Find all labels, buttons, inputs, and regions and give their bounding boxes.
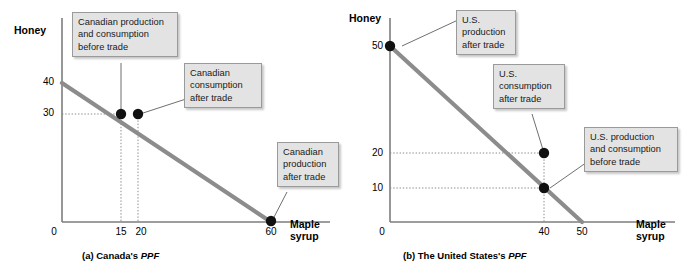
panel-united-states-ppf: Honey Maple syrup 50 20 10 0 40 50 U.S. … (345, 0, 691, 277)
canada-y-axis-label: Honey (14, 24, 46, 36)
ppf-figure: Honey Maple syrup 40 30 0 15 20 60 Canad… (0, 0, 691, 277)
us-ytick-10: 10 (357, 182, 383, 193)
canada-x-axis-label: Maple syrup (290, 218, 320, 242)
us-origin-label: 0 (374, 226, 390, 237)
callout-canada-production-after-trade[interactable]: Canadian production after trade (277, 142, 339, 187)
callout-us-consumption-after-trade[interactable]: U.S. consumption after trade (493, 64, 565, 109)
canada-point-consumption-after-trade[interactable] (133, 109, 143, 119)
callout-canada-consumption-after-trade[interactable]: Canadian consumption after trade (184, 63, 262, 108)
callout-canada-before-trade[interactable]: Canadian production and consumption befo… (72, 12, 178, 57)
canada-ytick-30: 30 (28, 107, 54, 118)
callout-us-production-after-trade[interactable]: U.S. production after trade (456, 10, 516, 55)
us-caption-prefix: (b) The United States's (403, 250, 508, 261)
us-x-axis-label: Maple syrup (636, 218, 666, 242)
canada-caption-italic: PPF (141, 250, 159, 261)
us-leader-consumption-after-trade (532, 114, 544, 153)
canada-ytick-40: 40 (28, 76, 54, 87)
us-ytick-20: 20 (357, 147, 383, 158)
us-point-before-trade[interactable] (539, 183, 549, 193)
us-xtick-50: 50 (571, 226, 593, 237)
canada-xtick-20: 20 (130, 226, 152, 237)
canada-leader-consumption (140, 99, 186, 114)
us-y-axis-label: Honey (349, 12, 381, 24)
canada-point-before-trade[interactable] (116, 109, 126, 119)
us-caption-italic: PPF (508, 250, 526, 261)
us-point-consumption-after-trade[interactable] (539, 148, 549, 158)
panel-canada-ppf: Honey Maple syrup 40 30 0 15 20 60 Canad… (0, 0, 345, 277)
us-ytick-50: 50 (357, 40, 383, 51)
us-caption: (b) The United States's PPF (403, 250, 527, 261)
canada-origin-label: 0 (46, 226, 62, 237)
us-xtick-40: 40 (533, 226, 555, 237)
us-leader-production-after-trade (402, 20, 458, 46)
canada-xtick-15: 15 (110, 226, 132, 237)
canada-point-production-after-trade[interactable] (266, 216, 276, 226)
canada-xtick-60: 60 (260, 226, 282, 237)
canada-leader-production (272, 192, 287, 221)
us-point-production-after-trade[interactable] (385, 41, 395, 51)
canada-caption-prefix: (a) Canada's (82, 250, 141, 261)
callout-us-before-trade[interactable]: U.S. production and consumption before t… (584, 127, 678, 172)
canada-caption: (a) Canada's PPF (82, 250, 159, 261)
